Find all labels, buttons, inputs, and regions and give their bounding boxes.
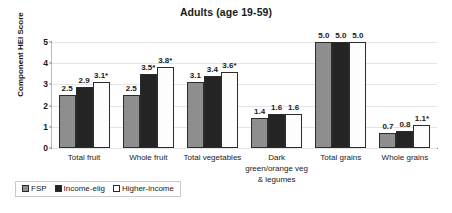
y-axis-tick-label: 4 (43, 58, 48, 68)
bar-group: 2.53.5*3.8* (116, 42, 180, 148)
gridline (52, 148, 437, 149)
bar-value-label: 3.5* (141, 64, 155, 72)
bar[interactable] (204, 76, 221, 148)
y-axis-tick-label: 2 (43, 101, 48, 111)
bar[interactable] (59, 95, 76, 148)
legend: FSPIncome-eligHigher-income (15, 181, 181, 197)
bar-slot: 0.7 (379, 42, 396, 148)
legend-item[interactable]: Income-elig (55, 184, 105, 193)
legend-swatch-icon (55, 185, 62, 192)
bar-slot: 3.8* (157, 42, 174, 148)
bar-group-bars: 3.13.43.6* (180, 42, 244, 148)
bar-value-label: 1.6 (288, 104, 299, 112)
bar-group: 1.41.61.6 (245, 42, 309, 148)
legend-item-label: Income-elig (64, 184, 105, 193)
y-axis-title: Component HEI Score (16, 1, 25, 109)
bar-group-bars: 1.41.61.6 (245, 42, 309, 148)
bar-value-label: 5.0 (335, 32, 346, 40)
bar[interactable] (187, 82, 204, 148)
bar[interactable] (413, 125, 430, 148)
bar-slot: 3.1 (187, 42, 204, 148)
bar-slot: 3.4 (204, 42, 221, 148)
chart-title: Adults (age 19-59) (0, 6, 452, 18)
bar[interactable] (251, 118, 268, 148)
bar[interactable] (332, 42, 349, 148)
bar-slot: 1.6 (268, 42, 285, 148)
x-axis-category-label: Darkgreen/orange veg& legumes (245, 152, 309, 185)
bar-group: 0.70.81.1* (373, 42, 437, 148)
category-label-line: green/orange veg (245, 163, 309, 174)
bar-value-label: 1.6 (271, 104, 282, 112)
bar-group-bars: 5.05.05.0 (309, 42, 373, 148)
bar-group-bars: 2.52.93.1* (52, 42, 116, 148)
bar[interactable] (140, 74, 157, 148)
bar-group: 5.05.05.0 (309, 42, 373, 148)
legend-item[interactable]: Higher-income (113, 184, 174, 193)
bar-value-label: 1.1* (415, 115, 429, 123)
bar-slot: 5.0 (315, 42, 332, 148)
category-label-line: Dark (245, 152, 309, 163)
bar-value-label: 3.1 (190, 72, 201, 80)
bar[interactable] (379, 133, 396, 148)
bar-value-label: 5.0 (318, 32, 329, 40)
bar-value-label: 5.0 (352, 32, 363, 40)
bar-value-label: 2.5 (62, 85, 73, 93)
category-label-line: Whole grains (373, 152, 437, 163)
legend-item[interactable]: FSP (22, 184, 47, 193)
bar-slot: 5.0 (332, 42, 349, 148)
bar-group: 2.52.93.1* (52, 42, 116, 148)
bar-slot: 3.6* (221, 42, 238, 148)
bar-group-bars: 0.70.81.1* (373, 42, 437, 148)
bar-value-label: 0.8 (399, 121, 410, 129)
bar-value-label: 3.6* (222, 62, 236, 70)
bar-slot: 2.5 (59, 42, 76, 148)
bar[interactable] (123, 95, 140, 148)
legend-swatch-icon (22, 185, 29, 192)
y-axis-tick-label: 1 (43, 122, 48, 132)
x-axis-category-label: Whole grains (373, 152, 437, 185)
bar[interactable] (315, 42, 332, 148)
category-label-line: & legumes (245, 174, 309, 185)
bar-slot: 3.5* (140, 42, 157, 148)
bar-value-label: 3.4 (207, 66, 218, 74)
y-axis-tick-label: 3 (43, 79, 48, 89)
category-label-line: Total fruit (52, 152, 116, 163)
bar-slot: 1.6 (285, 42, 302, 148)
legend-swatch-icon (113, 185, 120, 192)
legend-item-label: FSP (31, 184, 47, 193)
bar-slot: 5.0 (349, 42, 366, 148)
x-axis-category-label: Total grains (309, 152, 373, 185)
bar[interactable] (396, 131, 413, 148)
bar-value-label: 2.9 (79, 77, 90, 85)
bar-slot: 1.1* (413, 42, 430, 148)
bar-slot: 0.8 (396, 42, 413, 148)
bar-slot: 1.4 (251, 42, 268, 148)
bar-group-bars: 2.53.5*3.8* (116, 42, 180, 148)
bar-slot: 3.1* (93, 42, 110, 148)
bar[interactable] (93, 82, 110, 148)
category-label-line: Total grains (309, 152, 373, 163)
bar[interactable] (285, 114, 302, 148)
bar-group: 3.13.43.6* (180, 42, 244, 148)
bar-slot: 2.9 (76, 42, 93, 148)
bar-value-label: 0.7 (382, 123, 393, 131)
y-axis-tick-label: 0 (43, 143, 48, 153)
category-label-line: Whole fruit (116, 152, 180, 163)
y-axis-tick-label: 5 (43, 37, 48, 47)
bar-slot: 2.5 (123, 42, 140, 148)
bar[interactable] (349, 42, 366, 148)
bar[interactable] (268, 114, 285, 148)
x-axis-category-label: Total vegetables (180, 152, 244, 185)
bar-value-label: 3.8* (158, 57, 172, 65)
bar-value-label: 1.4 (254, 108, 265, 116)
bar[interactable] (157, 67, 174, 148)
bar-groups: 2.52.93.1*2.53.5*3.8*3.13.43.6*1.41.61.6… (52, 42, 437, 148)
bar-value-label: 3.1* (94, 72, 108, 80)
bar[interactable] (221, 72, 238, 148)
bar-value-label: 2.5 (126, 85, 137, 93)
bar[interactable] (76, 87, 93, 148)
category-label-line: Total vegetables (180, 152, 244, 163)
legend-item-label: Higher-income (122, 184, 174, 193)
